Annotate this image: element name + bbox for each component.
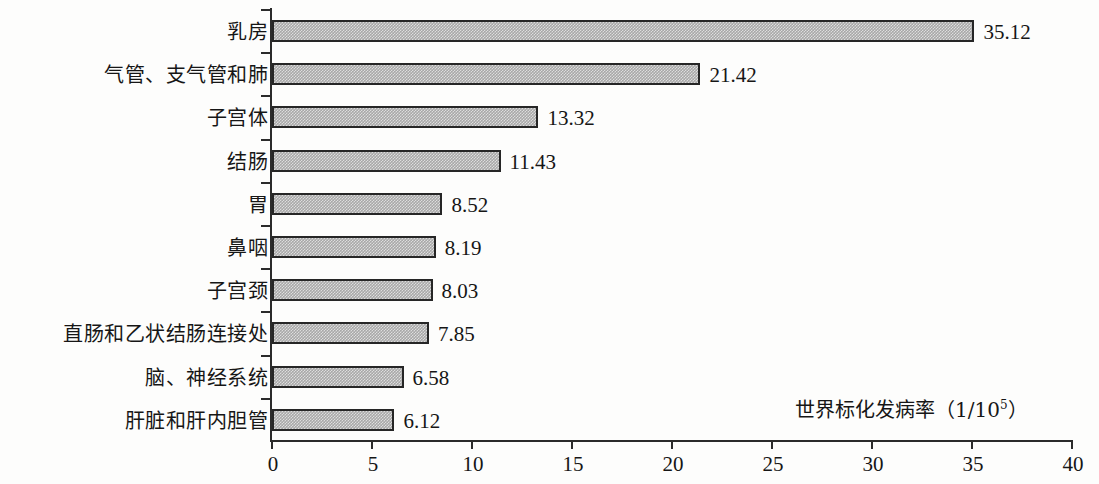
plot-area: 35.1221.4213.3211.438.528.198.037.856.58… xyxy=(272,8,1072,440)
bar xyxy=(272,409,394,431)
category-label: 子宫颈 xyxy=(0,280,268,302)
x-axis-tick xyxy=(1071,440,1073,449)
y-axis-tick xyxy=(261,355,271,357)
x-axis-tick-label: 30 xyxy=(843,452,903,476)
bar xyxy=(272,63,700,85)
bar xyxy=(272,236,436,258)
x-axis-tick xyxy=(971,440,973,449)
category-label: 乳房 xyxy=(0,21,268,43)
x-axis-tick xyxy=(871,440,873,449)
x-axis-title-tail: ） xyxy=(1008,398,1028,422)
y-axis-tick xyxy=(261,52,271,54)
category-label: 结肠 xyxy=(0,151,268,173)
x-axis-tick-label: 20 xyxy=(643,452,703,476)
bar-value-label: 7.85 xyxy=(438,323,475,345)
bar-value-label: 8.19 xyxy=(445,237,482,259)
bar xyxy=(272,279,433,301)
x-axis-tick-label: 15 xyxy=(543,452,603,476)
bar xyxy=(272,322,429,344)
category-label: 直肠和乙状结肠连接处 xyxy=(0,323,268,345)
bar xyxy=(272,193,442,215)
x-axis-tick-label: 35 xyxy=(943,452,1003,476)
x-axis-tick-label: 25 xyxy=(743,452,803,476)
x-axis-title-superscript: 5 xyxy=(1000,398,1008,412)
y-axis-tick xyxy=(261,182,271,184)
x-axis-title-main: 世界标化发病率（1/10 xyxy=(795,398,1000,422)
x-axis-tick xyxy=(571,440,573,449)
x-axis-tick xyxy=(671,440,673,449)
bar-value-label: 6.12 xyxy=(403,410,440,432)
x-axis-tick-label: 40 xyxy=(1043,452,1099,476)
x-axis-tick xyxy=(271,440,273,449)
bar-value-label: 21.42 xyxy=(709,64,756,86)
y-axis-tick xyxy=(261,311,271,313)
bar-chart: 乳房气管、支气管和肺子宫体结肠胃鼻咽子宫颈直肠和乙状结肠连接处脑、神经系统肝脏和… xyxy=(0,0,1099,484)
bar xyxy=(272,106,538,128)
bar xyxy=(272,366,404,388)
bar-value-label: 11.43 xyxy=(510,151,556,173)
y-axis-tick xyxy=(261,398,271,400)
y-axis-tick xyxy=(261,95,271,97)
category-label: 鼻咽 xyxy=(0,237,268,259)
bar-value-label: 6.58 xyxy=(413,367,450,389)
category-label: 肝脏和肝内胆管 xyxy=(0,410,268,432)
y-axis-tick xyxy=(261,139,271,141)
bar-value-label: 13.32 xyxy=(547,107,594,129)
category-label: 子宫体 xyxy=(0,107,268,129)
category-label: 胃 xyxy=(0,194,268,216)
category-label: 脑、神经系统 xyxy=(0,367,268,389)
y-axis-tick xyxy=(261,225,271,227)
x-axis-title: 世界标化发病率（1/105） xyxy=(795,398,1028,422)
x-axis-tick xyxy=(371,440,373,449)
x-axis-tick xyxy=(471,440,473,449)
x-axis-tick-label: 0 xyxy=(243,452,303,476)
bar xyxy=(272,150,501,172)
bar-value-label: 35.12 xyxy=(983,21,1030,43)
x-axis-tick xyxy=(771,440,773,449)
x-axis-tick-label: 10 xyxy=(443,452,503,476)
category-label: 气管、支气管和肺 xyxy=(0,64,268,86)
y-axis-tick xyxy=(261,9,271,11)
x-axis-tick-label: 5 xyxy=(343,452,403,476)
bar xyxy=(272,20,974,42)
y-axis-tick xyxy=(261,268,271,270)
bar-value-label: 8.03 xyxy=(442,280,479,302)
bar-value-label: 8.52 xyxy=(451,194,488,216)
